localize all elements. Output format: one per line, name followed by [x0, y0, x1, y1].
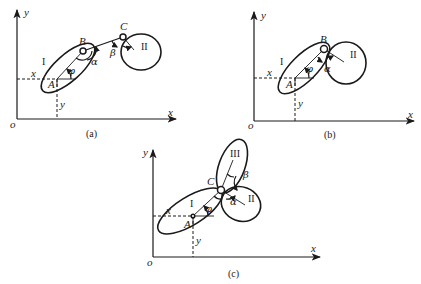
beta-arc-ref — [227, 174, 234, 177]
body-I-label: I — [42, 56, 45, 67]
body-III-label: III — [230, 148, 240, 159]
panel-b: y x o x y φ I A α B II (b) — [248, 9, 414, 141]
caption-b: (b) — [324, 129, 336, 141]
body-II-ellipse — [326, 42, 366, 84]
x-axis-label: x — [167, 106, 173, 118]
local-y-label: y — [59, 98, 65, 110]
y-axis-label: y — [23, 6, 29, 18]
angle-phi-label: φ — [68, 65, 75, 76]
joint-A — [191, 214, 195, 218]
joint-C — [120, 34, 126, 40]
point-A-label: A — [285, 78, 293, 90]
panel-c: y x o x y φ I A α II β III C (c) — [142, 135, 320, 280]
local-x-label: x — [30, 67, 36, 79]
alpha-arc — [318, 57, 322, 62]
point-C-label: C — [207, 175, 215, 187]
local-y-label: y — [297, 97, 303, 109]
angle-beta-label: β — [109, 47, 116, 58]
caption-c: (c) — [228, 268, 239, 280]
y-axis-label: y — [260, 9, 266, 21]
alpha-arc-ref — [214, 196, 222, 199]
angle-beta-label: β — [242, 169, 249, 180]
angle-phi-label: φ — [205, 203, 212, 214]
origin-label: o — [10, 118, 16, 130]
line-C-body-III — [221, 160, 233, 190]
origin-label: o — [147, 256, 153, 268]
body-I-label: I — [190, 198, 193, 209]
x-axis-label: x — [310, 242, 316, 254]
point-B-label: B — [320, 33, 327, 45]
angle-alpha-label: α — [91, 56, 98, 67]
body-II-ellipse — [121, 34, 161, 70]
beta-arc-2 — [123, 46, 131, 48]
joint-C — [218, 187, 225, 194]
body-II-label: II — [141, 41, 148, 52]
angle-alpha-label: α — [230, 196, 237, 207]
y-axis-label: y — [142, 146, 148, 158]
figure-canvas: y x o x y φ I A α B β C II (a) — [0, 0, 421, 284]
local-x-label: x — [266, 66, 272, 78]
body-I-label: I — [280, 56, 283, 67]
origin-label: o — [248, 119, 254, 131]
point-A-label: A — [47, 78, 55, 90]
angle-phi-label: φ — [306, 63, 313, 74]
caption-a: (a) — [86, 128, 97, 140]
local-y-label: y — [195, 234, 201, 246]
point-A-label: A — [183, 218, 191, 230]
body-II-label: II — [248, 193, 255, 204]
x-axis-label: x — [407, 108, 413, 120]
joint-B — [80, 48, 86, 54]
angle-alpha-label: α — [324, 63, 331, 74]
point-B-label: B — [79, 35, 86, 47]
joint-B — [321, 46, 328, 53]
point-C-label: C — [120, 20, 128, 32]
panel-a: y x o x y φ I A α B β C II (a) — [10, 6, 176, 140]
body-II-label: II — [350, 49, 357, 60]
